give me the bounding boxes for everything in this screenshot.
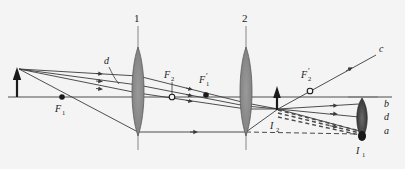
focal-label-F1-letter: F [54, 103, 62, 114]
focal-label-F1-prime-sub: 1 [206, 80, 209, 87]
intermediate-image-label-letter: I [269, 120, 274, 131]
focal-label-F2-prime-sub: 2 [308, 75, 311, 82]
optics-ray-diagram: 1 2 F 1 F 2 F ′ 1 F ′ 2 d c b d a I 2 [0, 0, 405, 169]
focal-label-F1-sub: 1 [62, 109, 65, 116]
focal-point-F2-marker [169, 94, 175, 100]
focal-label-F1-prime-letter: F [198, 74, 206, 85]
arrowhead-marker-3 [96, 89, 101, 90]
final-virtual-image-dot [359, 132, 366, 140]
ray-label-a: a [384, 125, 389, 136]
final-image-label-letter: I [355, 145, 360, 156]
diagram-canvas: 1 2 F 1 F 2 F ′ 1 F ′ 2 d c b d a I 2 [0, 0, 405, 169]
focal-label-F2-prime-letter: F [300, 69, 308, 80]
final-image-label-sub: 1 [362, 151, 365, 158]
focal-label-F1-prime: F ′ 1 [198, 72, 209, 87]
intermediate-image-label-sub: 2 [276, 126, 279, 133]
focal-label-F2-sub: 2 [171, 75, 174, 82]
arrowhead-marker-9 [330, 114, 336, 115]
ray-label-c: c [379, 43, 384, 54]
focal-label-F2-prime: F ′ 2 [300, 67, 311, 82]
ray-label-b: b [384, 98, 389, 109]
focal-point-F2-prime-marker [307, 88, 313, 94]
lens-2-label: 2 [242, 12, 248, 24]
focal-point-F1-marker [59, 94, 65, 100]
focal-label-F2-letter: F [163, 69, 171, 80]
focal-point-F1-prime-marker [203, 92, 209, 98]
lens-1-label: 1 [134, 12, 140, 24]
